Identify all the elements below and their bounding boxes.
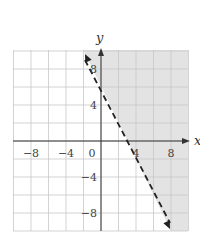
x-tick-label: 4 [133, 147, 140, 160]
y-tick-label: −4 [81, 171, 97, 184]
x-tick-label: −8 [23, 147, 39, 160]
x-tick-label: 0 [89, 147, 96, 160]
x-axis-label: x [194, 133, 200, 148]
x-tick-label: −4 [58, 147, 74, 160]
y-tick-label: 8 [90, 63, 97, 76]
x-tick-label: 8 [168, 147, 175, 160]
y-tick-label: −8 [81, 207, 97, 220]
y-axis-label: y [95, 30, 104, 45]
y-tick-label: 4 [90, 99, 97, 112]
coordinate-plane: xy−8−404884−4−8 [0, 0, 200, 248]
